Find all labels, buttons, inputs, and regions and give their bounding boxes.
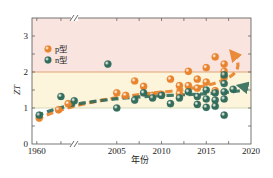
n-type-point (221, 95, 228, 102)
n-type-point (194, 101, 201, 108)
p-type-point (140, 83, 147, 90)
legend-n-type-label: n型 (55, 55, 68, 65)
zone-band (32, 108, 251, 144)
x-tick-label: 2010 (153, 146, 172, 156)
p-type-point (167, 76, 174, 83)
p-type-point (131, 77, 138, 84)
y-axis-title: ZT (12, 84, 22, 95)
p-type-point (203, 64, 210, 71)
p-type-point (176, 82, 183, 89)
p-type-point (55, 106, 62, 113)
n-type-point (221, 88, 228, 95)
y-tick-label: 0 (24, 139, 29, 149)
n-type-point (212, 89, 219, 96)
x-tick-label: 2005 (108, 146, 127, 156)
n-type-point (131, 96, 138, 103)
n-type-point (221, 71, 228, 78)
n-type-point (149, 94, 156, 101)
n-type-point (158, 92, 165, 99)
y-tick-label: 3 (24, 31, 29, 41)
n-type-point (185, 88, 192, 95)
x-tick-label: 2020 (242, 146, 261, 156)
n-type-point (167, 100, 174, 107)
n-type-point (221, 80, 228, 87)
n-type-point (71, 97, 78, 104)
p-type-point (122, 92, 129, 99)
n-type-point (176, 94, 183, 101)
n-type-point (221, 112, 228, 119)
p-type-point (194, 76, 201, 83)
n-type-point (230, 86, 237, 93)
p-type-point (185, 68, 192, 75)
n-type-point (113, 104, 120, 111)
n-type-point (203, 86, 210, 93)
zt-chart: 19602005201020152020 0123 年份 ZT p型n型 (0, 0, 273, 178)
n-type-point (194, 93, 201, 100)
n-type-point (203, 95, 210, 102)
legend-p-type-label: p型 (55, 44, 68, 54)
n-type-point (140, 89, 147, 96)
background-zones (32, 18, 251, 144)
p-type-point (221, 60, 228, 67)
legend-p-type-marker-icon (45, 46, 52, 53)
legend-n-type-marker-icon (45, 57, 52, 64)
n-type-point (212, 103, 219, 110)
n-type-point (104, 60, 111, 67)
p-type-point (113, 89, 120, 96)
n-type-point (36, 112, 43, 119)
y-tick-label: 1 (24, 103, 29, 113)
p-type-point (203, 78, 210, 85)
p-type-point (212, 53, 219, 60)
n-type-point (57, 93, 64, 100)
x-axis-title: 年份 (131, 154, 149, 165)
p-type-point (194, 85, 201, 92)
y-tick-label: 2 (24, 67, 29, 77)
y-tick-labels: 0123 (24, 31, 29, 149)
x-tick-label: 1960 (28, 146, 47, 156)
n-type-point (203, 104, 210, 111)
x-tick-label: 2015 (197, 146, 216, 156)
